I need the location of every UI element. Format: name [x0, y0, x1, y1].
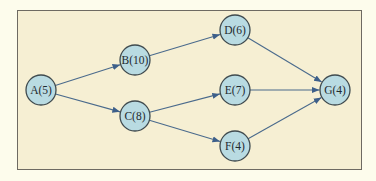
node-d: D(6) — [220, 15, 250, 45]
node-label: A(5) — [30, 84, 52, 97]
edge-c-to-e — [150, 94, 220, 112]
node-g: G(4) — [320, 75, 350, 105]
node-label: F(4) — [225, 140, 245, 153]
node-f: F(4) — [220, 131, 250, 161]
edge-a-to-c — [55, 94, 120, 112]
nodes: A(5)B(10)C(8)D(6)E(7)F(4)G(4) — [26, 15, 350, 161]
edge-c-to-f — [149, 120, 220, 141]
edge-d-to-g — [248, 38, 322, 82]
node-label: E(7) — [225, 84, 246, 97]
node-e: E(7) — [220, 75, 250, 105]
node-b: B(10) — [120, 45, 150, 75]
node-label: B(10) — [122, 54, 149, 67]
node-label: D(6) — [224, 24, 246, 37]
node-label: C(8) — [124, 110, 145, 123]
node-label: G(4) — [324, 84, 346, 97]
edge-f-to-g — [248, 98, 321, 139]
edges — [55, 34, 321, 141]
edge-b-to-d — [149, 34, 220, 55]
edge-a-to-b — [55, 65, 120, 86]
network-diagram: A(5)B(10)C(8)D(6)E(7)F(4)G(4) — [0, 0, 376, 181]
node-a: A(5) — [26, 75, 56, 105]
node-c: C(8) — [120, 101, 150, 131]
